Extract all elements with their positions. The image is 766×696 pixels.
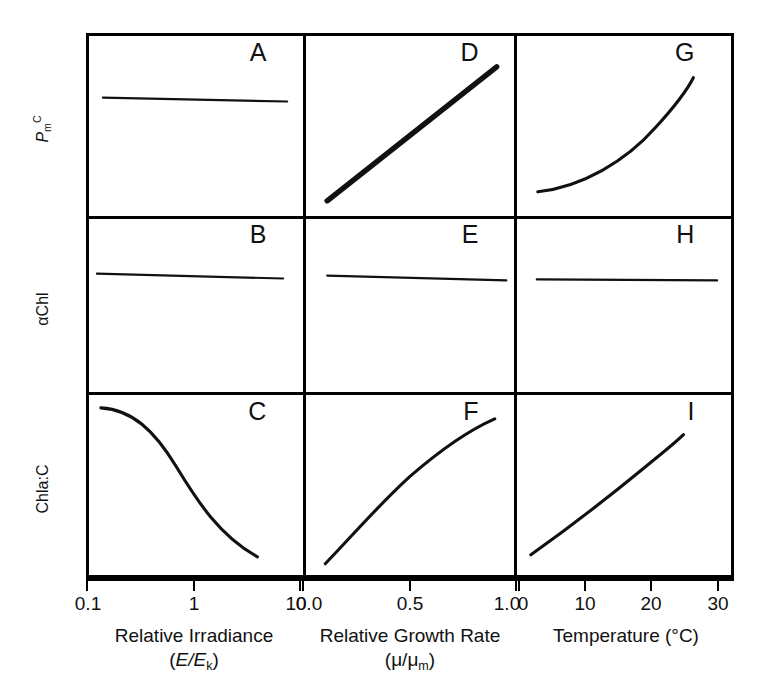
x-axis-title-col2-text: Relative Growth Rate [320,625,501,646]
panel-A-plot [89,36,303,216]
panel-H-curve [537,279,717,280]
panel-B-plot [89,219,303,393]
panel-A: A [89,36,303,216]
x-axis-title-col3: Temperature (°C) [508,624,744,648]
y-axis-label-row3-text: Chla:C [34,465,52,514]
x-axis-unit-col2-sub: m [418,659,428,673]
panel-F-label: F [463,399,478,424]
panel-C-curve [101,408,258,557]
panel-G-curve [538,78,694,192]
x-axis-col3-ticklabel-2: 20 [640,593,661,615]
panel-B: B [89,216,303,396]
x-axis-unit-col1-base: E/E [176,649,207,670]
panel-E-curve [327,275,506,280]
panel-C: C [89,395,303,575]
y-axis-label-row1-sub: m [41,123,53,132]
x-axis-title-col1-text: Relative Irradiance [115,625,273,646]
x-axis-col2-ticklabel-0: 0.0 [296,593,322,615]
x-axis-col3-line [518,578,734,581]
panel-H-plot [517,219,731,393]
x-axis-unit-col2-base: μ/μ [391,649,418,670]
x-axis-title-col1: Relative Irradiance (E/Ek) [76,624,312,673]
x-axis-col3: 0 10 20 30 [518,578,734,591]
x-axis-title-col2: Relative Growth Rate (μ/μm) [292,624,528,673]
panel-A-curve [103,98,287,102]
panel-G-plot [517,36,731,216]
y-axis-label-row1: PmC [0,120,86,138]
panel-F-plot [306,395,514,575]
x-axis-col1-tick-0 [86,578,88,591]
y-axis-label-row2: αChl [0,300,86,318]
panel-I: I [517,395,731,575]
panel-D-curve [327,67,496,201]
x-axis-unit-col1: (E/Ek) [76,648,312,672]
panel-B-curve [97,273,283,278]
panel-grid: A D G B E [86,33,734,578]
panel-H: H [517,216,731,396]
x-axis-unit-col1-sub: k [206,659,212,673]
x-axis-col2-ticklabel-1: 0.5 [397,593,423,615]
panel-A-label: A [250,40,267,65]
x-axis-title-col3-text: Temperature (°C) [553,625,699,646]
x-axis-col3-tick-3 [717,578,719,591]
panel-C-label: C [248,399,266,424]
y-axis-label-row3: Chla:C [0,480,86,498]
x-axis-col3-tick-0 [518,578,520,591]
panel-I-label: I [687,399,694,424]
x-axis-col3-tick-1 [584,578,586,591]
panel-D-label: D [460,40,478,65]
x-axis-col1: 0.1 1 10 [86,578,302,591]
x-axis-col2-tick-1 [409,578,411,591]
panel-E-plot [306,219,514,393]
panel-F: F [303,395,517,575]
panel-G: G [517,36,731,216]
panel-E: E [303,216,517,396]
panel-B-label: B [250,222,267,247]
panel-H-label: H [676,222,694,247]
panel-C-plot [89,395,303,575]
x-axis-col3-ticklabel-1: 10 [574,593,595,615]
panel-F-curve [325,419,494,564]
x-axis-col3-ticklabel-0: 0 [518,593,529,615]
x-axis-col3-tick-2 [650,578,652,591]
y-axis-label-row1-base: P [34,132,51,143]
x-axis-unit-col2: (μ/μm) [292,648,528,672]
x-axis-col2-ticklabel-2: 1.0 [494,593,520,615]
y-axis-label-row1-sup: C [31,115,43,123]
panel-G-label: G [675,40,695,65]
panel-E-label: E [462,222,479,247]
x-axis-col3-ticklabel-3: 30 [707,593,728,615]
x-axis-col2-tick-0 [302,578,304,591]
x-axis-col1-ticklabel-0: 0.1 [75,593,101,615]
x-axis-col1-ticklabel-1: 1 [189,593,200,615]
panel-I-plot [517,395,731,575]
y-axis-label-row2-text: αChl [34,292,52,325]
panel-D-plot [306,36,514,216]
panel-I-curve [531,435,684,555]
x-axis-col1-tick-1 [193,578,195,591]
x-axis-col2: 0.0 0.5 1.0 [302,578,518,591]
figure-root: PmC αChl Chla:C A D G [0,0,766,696]
panel-D: D [303,36,517,216]
